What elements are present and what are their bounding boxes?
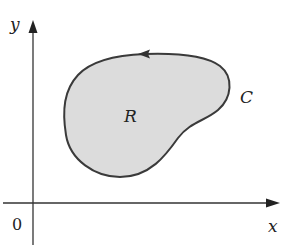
y-axis-label: y (9, 14, 20, 34)
origin-label: 0 (12, 215, 22, 234)
curve-label: C (240, 87, 253, 107)
region-label: R (123, 106, 137, 126)
curve-c (64, 54, 229, 177)
y-axis-arrow-icon (29, 20, 38, 33)
diagram-canvas: y x 0 R C (0, 0, 284, 247)
x-axis-arrow-icon (266, 199, 280, 208)
x-axis-label: x (268, 216, 278, 236)
